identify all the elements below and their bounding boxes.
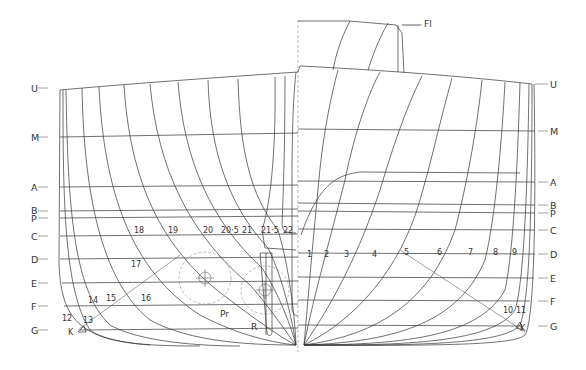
station-label-18: 18 bbox=[134, 226, 144, 235]
waterline-label-U-right: U bbox=[550, 80, 557, 89]
fore-station-curves bbox=[301, 70, 535, 345]
sheer-line bbox=[60, 66, 532, 90]
waterline-label-D-left: D bbox=[31, 255, 38, 264]
station-label-15: 15 bbox=[106, 294, 116, 303]
station-label-6: 6 bbox=[437, 248, 442, 257]
station-label-14: 14 bbox=[88, 296, 98, 305]
forecastle-outline bbox=[298, 21, 420, 73]
waterline-label-C-right: C bbox=[550, 226, 557, 235]
waterline-label-C-left: C bbox=[31, 232, 38, 241]
waterline-label-A-right: A bbox=[550, 178, 557, 187]
diagonals bbox=[78, 250, 525, 332]
waterline-label-A-left: A bbox=[31, 183, 38, 192]
knuckle-label-left: K bbox=[68, 328, 73, 337]
station-label-12: 12 bbox=[62, 314, 72, 323]
station-label-22: 22 bbox=[283, 226, 293, 235]
waterline-label-P-right: P bbox=[550, 209, 556, 218]
station-label-10: 10 bbox=[503, 306, 513, 315]
waterline-label-F-left: F bbox=[31, 302, 36, 311]
station-label-17: 17 bbox=[131, 260, 141, 269]
waterline-label-M-right: M bbox=[550, 127, 558, 136]
waterline-label-G-right: G bbox=[550, 322, 557, 331]
station-label-9: 9 bbox=[512, 248, 517, 257]
waterline-label-M-left: M bbox=[31, 133, 39, 142]
station-label-3: 3 bbox=[344, 250, 349, 259]
waterline-label-G-left: G bbox=[31, 326, 38, 335]
knuckle-label-right: K bbox=[520, 324, 525, 333]
rudder-label: R bbox=[251, 323, 257, 332]
waterline-label-P-left: P bbox=[31, 214, 37, 223]
waterline-label-D-right: D bbox=[550, 250, 557, 259]
station-label-13: 13 bbox=[83, 316, 93, 325]
station-label-20-5: 20·5 bbox=[221, 226, 239, 235]
station-label-5: 5 bbox=[404, 248, 409, 257]
stern-frame bbox=[292, 72, 298, 316]
station-label-21: 21 bbox=[242, 226, 252, 235]
station-label-21-5: 21·5 bbox=[261, 226, 279, 235]
station-label-19: 19 bbox=[168, 226, 178, 235]
waterline-label-E-left: E bbox=[31, 279, 37, 288]
station-label-2: 2 bbox=[324, 250, 329, 259]
propeller-label: Pr bbox=[220, 310, 229, 319]
station-label-8: 8 bbox=[493, 248, 498, 257]
body-plan-drawing bbox=[0, 0, 586, 370]
waterline-label-E-right: E bbox=[550, 274, 556, 283]
forecastle-label: Fl bbox=[424, 20, 432, 29]
station-label-1: 1 bbox=[307, 250, 312, 259]
station-label-20: 20 bbox=[203, 226, 213, 235]
station-label-11: 11 bbox=[516, 306, 526, 315]
waterline-label-F-right: F bbox=[550, 297, 555, 306]
waterline-label-U-left: U bbox=[31, 84, 38, 93]
station-label-7: 7 bbox=[468, 248, 473, 257]
station-label-16: 16 bbox=[141, 294, 151, 303]
station-label-4: 4 bbox=[372, 250, 377, 259]
